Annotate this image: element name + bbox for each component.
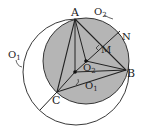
point-o1 [73, 70, 77, 74]
geometry-diagram: A B C M N O1 O2 O2 O1 [0, 0, 141, 130]
label-n: N [122, 31, 131, 42]
label-circle-o1: O1 [8, 49, 21, 62]
label-b: B [127, 67, 135, 80]
label-c: C [52, 94, 60, 107]
label-m: M [101, 44, 111, 55]
label-a: A [70, 6, 80, 19]
label-circle-o2: O2 [94, 6, 107, 19]
